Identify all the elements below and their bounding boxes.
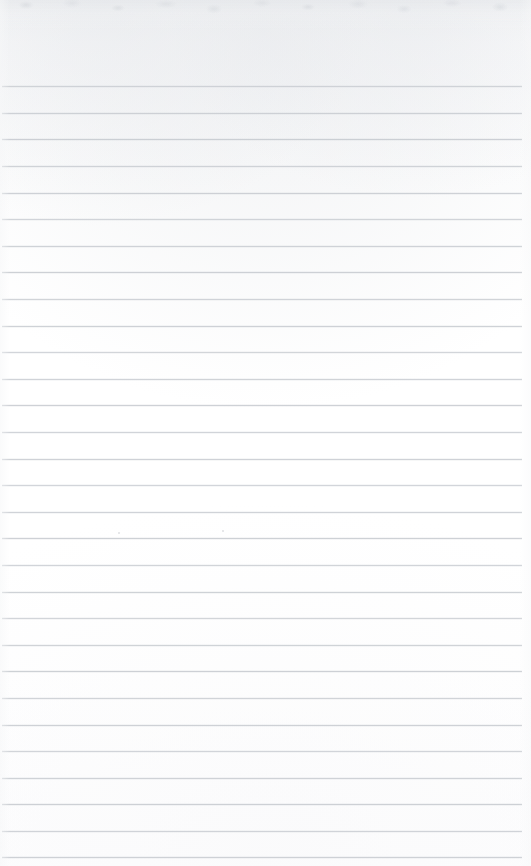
rule-line bbox=[2, 485, 522, 486]
rule-line bbox=[2, 432, 522, 433]
rule-line bbox=[2, 326, 522, 327]
ruled-lines-layer bbox=[0, 0, 531, 866]
rule-line bbox=[2, 219, 522, 220]
rule-line bbox=[2, 538, 522, 539]
rule-line bbox=[2, 352, 522, 353]
rule-line bbox=[2, 512, 522, 513]
rule-line bbox=[2, 86, 522, 87]
rule-line bbox=[2, 725, 522, 726]
rule-line bbox=[2, 299, 522, 300]
rule-line bbox=[2, 751, 522, 752]
rule-line bbox=[2, 246, 522, 247]
rule-line bbox=[2, 272, 522, 273]
rule-line bbox=[2, 113, 522, 114]
scanned-notepad-page bbox=[0, 0, 531, 866]
rule-line bbox=[2, 166, 522, 167]
rule-line bbox=[2, 671, 522, 672]
scan-speck bbox=[222, 530, 224, 532]
rule-line bbox=[2, 139, 522, 140]
rule-line bbox=[2, 618, 522, 619]
rule-line bbox=[2, 831, 522, 832]
rule-line bbox=[2, 592, 522, 593]
rule-line bbox=[2, 857, 522, 858]
rule-line bbox=[2, 565, 522, 566]
rule-line bbox=[2, 405, 522, 406]
scan-speck bbox=[118, 532, 120, 534]
rule-line bbox=[2, 778, 522, 779]
rule-line bbox=[2, 459, 522, 460]
rule-line bbox=[2, 645, 522, 646]
rule-line bbox=[2, 379, 522, 380]
rule-line bbox=[2, 193, 522, 194]
rule-line bbox=[2, 698, 522, 699]
rule-line bbox=[2, 804, 522, 805]
